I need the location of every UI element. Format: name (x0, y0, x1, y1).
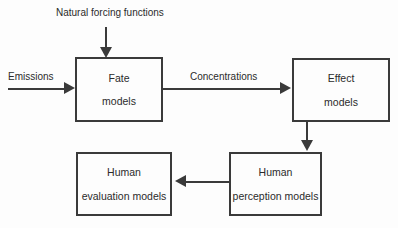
arrowhead-concentrations-to-effect (280, 82, 291, 94)
node-fate-line2: models (102, 96, 136, 107)
node-human-evaluation-models[interactable]: Human evaluation models (76, 152, 172, 216)
arrowhead-effect-to-perception (301, 140, 313, 151)
node-perception-line1: Human (259, 167, 293, 178)
arrowhead-emissions-to-fate (64, 82, 75, 94)
edge-label-concentrations: Concentrations (190, 72, 257, 82)
arrowhead-perception-to-evaluation (175, 175, 186, 187)
node-fate-line1: Fate (108, 73, 129, 84)
node-evaluation-line1: Human (107, 167, 141, 178)
diagram-canvas: Natural forcing functions Emissions Fate… (0, 0, 398, 228)
node-effect-line2: models (324, 97, 358, 108)
node-evaluation-line2: evaluation models (82, 191, 167, 202)
connector-perception-to-evaluation-line (186, 181, 229, 183)
node-fate-models[interactable]: Fate models (75, 57, 163, 122)
node-effect-models[interactable]: Effect models (292, 58, 390, 122)
connector-effect-to-perception-line (306, 122, 308, 142)
connector-natural-forcing-line (105, 27, 107, 49)
node-perception-line2: perception models (233, 191, 319, 202)
node-human-perception-models[interactable]: Human perception models (229, 152, 322, 216)
edge-label-emissions: Emissions (8, 72, 54, 82)
connector-concentrations-line (163, 88, 281, 90)
node-effect-line1: Effect (328, 73, 355, 84)
connector-emissions-line (8, 88, 66, 90)
edge-label-natural-forcing: Natural forcing functions (56, 8, 164, 18)
